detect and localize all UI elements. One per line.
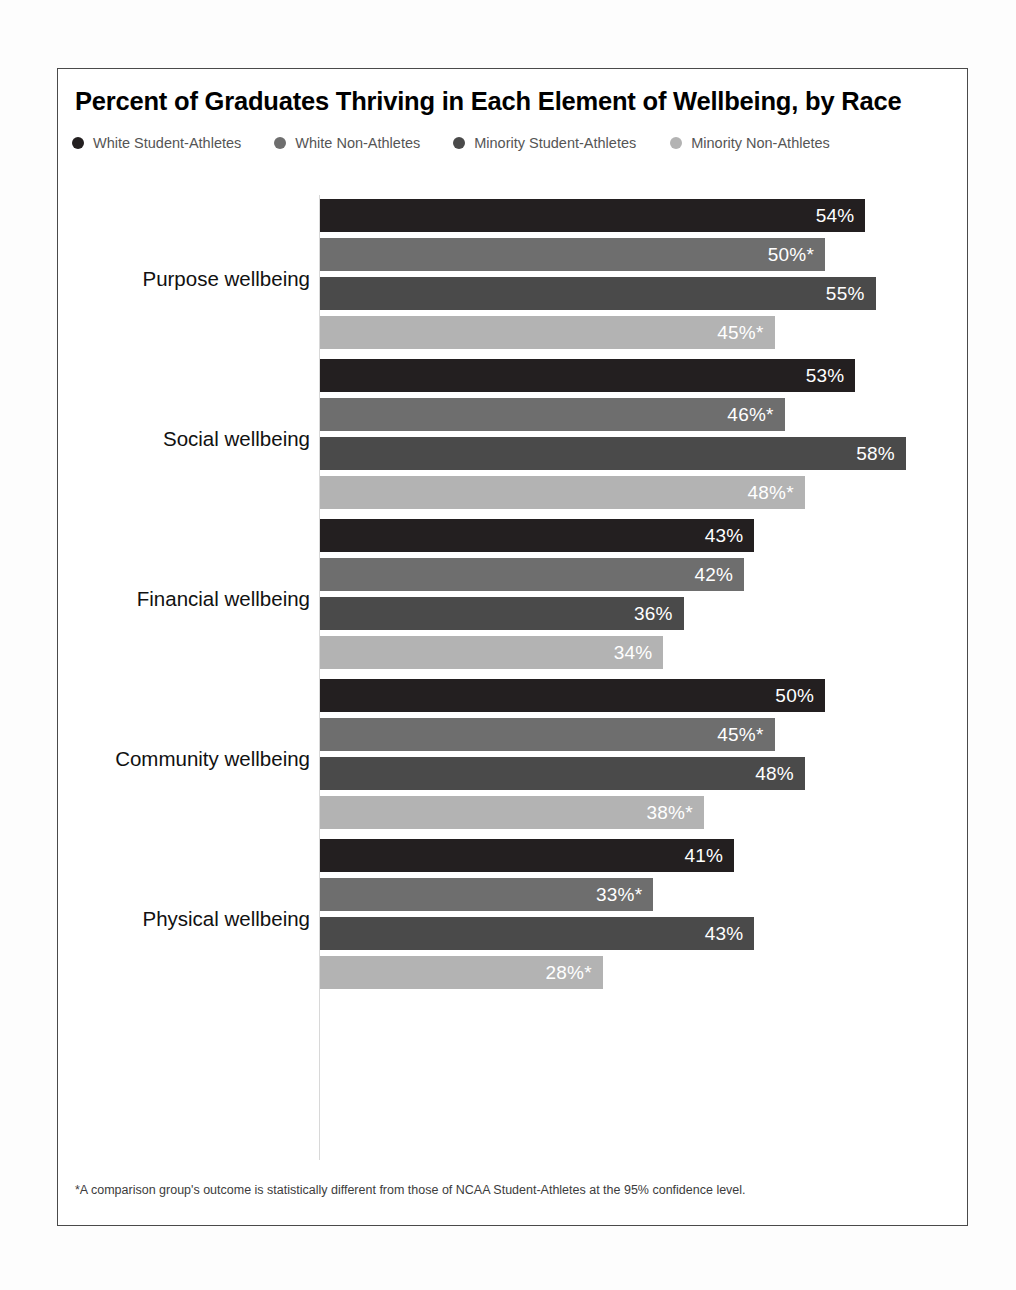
bar-value-label: 46%* xyxy=(727,404,773,426)
category-label: Financial wellbeing xyxy=(137,587,310,611)
bar-value-label: 48% xyxy=(755,763,794,785)
bar-value-label: 50%* xyxy=(768,244,814,266)
legend-dot-icon xyxy=(72,137,84,149)
bar[interactable]: 48%* xyxy=(320,476,805,509)
bar-row: 36% xyxy=(320,597,969,630)
bar-row: 48%* xyxy=(320,476,969,509)
legend-dot-icon xyxy=(670,137,682,149)
bar-value-label: 36% xyxy=(634,603,673,625)
bar[interactable]: 54% xyxy=(320,199,865,232)
bar[interactable]: 28%* xyxy=(320,956,603,989)
bar-stack: 50%45%*48%38%* xyxy=(320,679,969,835)
bar-value-label: 43% xyxy=(705,923,744,945)
bar-row: 43% xyxy=(320,917,969,950)
bar[interactable]: 43% xyxy=(320,519,754,552)
bar-group: Purpose wellbeing54%50%*55%45%* xyxy=(58,199,969,359)
bar-stack: 53%46%*58%48%* xyxy=(320,359,969,515)
bar[interactable]: 34% xyxy=(320,636,663,669)
category-label: Purpose wellbeing xyxy=(142,267,310,291)
bar[interactable]: 50%* xyxy=(320,238,825,271)
legend-item-white-non-athletes: White Non-Athletes xyxy=(274,135,420,151)
legend-dot-icon xyxy=(453,137,465,149)
category-label: Physical wellbeing xyxy=(142,907,310,931)
bar-value-label: 45%* xyxy=(717,322,763,344)
bar-group: Financial wellbeing43%42%36%34% xyxy=(58,519,969,679)
legend-item-label: White Student-Athletes xyxy=(93,135,241,151)
bar-row: 46%* xyxy=(320,398,969,431)
bar-group: Community wellbeing50%45%*48%38%* xyxy=(58,679,969,839)
bar-row: 50%* xyxy=(320,238,969,271)
bar-row: 45%* xyxy=(320,316,969,349)
bar-value-label: 53% xyxy=(806,365,845,387)
bar[interactable]: 46%* xyxy=(320,398,785,431)
bar-row: 38%* xyxy=(320,796,969,829)
chart-legend: White Student-Athletes White Non-Athlete… xyxy=(72,135,952,151)
legend-item-label: Minority Student-Athletes xyxy=(474,135,636,151)
bar-row: 53% xyxy=(320,359,969,392)
bar-group: Social wellbeing53%46%*58%48%* xyxy=(58,359,969,519)
chart-panel: Percent of Graduates Thriving in Each El… xyxy=(57,68,968,1226)
bar-row: 54% xyxy=(320,199,969,232)
bar-row: 50% xyxy=(320,679,969,712)
bar-value-label: 58% xyxy=(856,443,895,465)
legend-item-minority-non-athletes: Minority Non-Athletes xyxy=(670,135,830,151)
bar-value-label: 33%* xyxy=(596,884,642,906)
bar-row: 42% xyxy=(320,558,969,591)
bar[interactable]: 58% xyxy=(320,437,906,470)
bar-row: 55% xyxy=(320,277,969,310)
plot-area: Purpose wellbeing54%50%*55%45%*Social we… xyxy=(58,195,969,1160)
legend-item-white-student-athletes: White Student-Athletes xyxy=(72,135,241,151)
bar-value-label: 55% xyxy=(826,283,865,305)
bar-row: 28%* xyxy=(320,956,969,989)
bar[interactable]: 33%* xyxy=(320,878,653,911)
bar-row: 48% xyxy=(320,757,969,790)
bar[interactable]: 38%* xyxy=(320,796,704,829)
bar[interactable]: 45%* xyxy=(320,316,775,349)
bar-row: 41% xyxy=(320,839,969,872)
bar[interactable]: 45%* xyxy=(320,718,775,751)
bar-value-label: 43% xyxy=(705,525,744,547)
legend-item-minority-student-athletes: Minority Student-Athletes xyxy=(453,135,636,151)
bar[interactable]: 48% xyxy=(320,757,805,790)
bar[interactable]: 41% xyxy=(320,839,734,872)
bar-value-label: 42% xyxy=(695,564,734,586)
legend-item-label: White Non-Athletes xyxy=(295,135,420,151)
chart-title: Percent of Graduates Thriving in Each El… xyxy=(75,87,955,116)
category-label: Social wellbeing xyxy=(163,427,310,451)
bar-value-label: 28%* xyxy=(546,962,592,984)
bar-stack: 54%50%*55%45%* xyxy=(320,199,969,355)
bar-value-label: 48%* xyxy=(748,482,794,504)
bar[interactable]: 50% xyxy=(320,679,825,712)
bar-stack: 43%42%36%34% xyxy=(320,519,969,675)
chart-footnote: *A comparison group's outcome is statist… xyxy=(75,1183,935,1197)
bar[interactable]: 43% xyxy=(320,917,754,950)
bar-row: 34% xyxy=(320,636,969,669)
scanned-page: Percent of Graduates Thriving in Each El… xyxy=(0,0,1016,1290)
bar-row: 45%* xyxy=(320,718,969,751)
bar-value-label: 38%* xyxy=(647,802,693,824)
bar-row: 58% xyxy=(320,437,969,470)
legend-item-label: Minority Non-Athletes xyxy=(691,135,830,151)
bar-value-label: 54% xyxy=(816,205,855,227)
legend-dot-icon xyxy=(274,137,286,149)
bar-value-label: 34% xyxy=(614,642,653,664)
bar-row: 43% xyxy=(320,519,969,552)
bar-stack: 41%33%*43%28%* xyxy=(320,839,969,995)
bar-value-label: 45%* xyxy=(717,724,763,746)
bar[interactable]: 42% xyxy=(320,558,744,591)
bar[interactable]: 36% xyxy=(320,597,684,630)
bar[interactable]: 53% xyxy=(320,359,855,392)
bar-group: Physical wellbeing41%33%*43%28%* xyxy=(58,839,969,999)
bar-value-label: 41% xyxy=(684,845,723,867)
bar-value-label: 50% xyxy=(775,685,814,707)
bar[interactable]: 55% xyxy=(320,277,876,310)
bar-row: 33%* xyxy=(320,878,969,911)
category-label: Community wellbeing xyxy=(115,747,310,771)
